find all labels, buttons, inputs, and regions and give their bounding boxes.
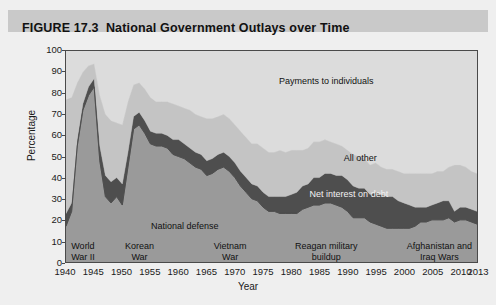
- annotation-afghanistan-and-iraq-wars: Afghanistan andIraq Wars: [407, 241, 472, 262]
- annotation-line1: Afghanistan and: [407, 241, 472, 252]
- y-tick-mark: [62, 220, 65, 221]
- annotation-net-interest-on-debt: Net interest on debt: [310, 189, 389, 200]
- annotation-national-defense: National defense: [151, 221, 219, 232]
- annotation-world-war-ii: WorldWar II: [71, 241, 95, 262]
- y-tick-label: 40: [34, 173, 62, 183]
- annotation-payments-to-individuals: Payments to individuals: [279, 76, 374, 87]
- y-tick-mark: [62, 135, 65, 136]
- stacked-area-chart: [66, 51, 477, 262]
- annotation-line1: Korean: [125, 241, 154, 252]
- y-tick-mark: [62, 263, 65, 264]
- plot-area: Payments to individualsAll otherNet inte…: [65, 50, 478, 263]
- annotation-reagan-military-buildup: Reagan militarybuildup: [295, 241, 358, 262]
- annotation-line2: Iraq Wars: [407, 252, 472, 263]
- annotation-line2: buildup: [295, 252, 358, 263]
- x-axis-ticks: 1940194519501955196019651970197519801985…: [8, 266, 488, 282]
- figure-title-band: FIGURE 17.3 National Government Outlays …: [8, 10, 488, 32]
- y-tick-label: 90: [34, 66, 62, 76]
- figure-container: FIGURE 17.3 National Government Outlays …: [0, 0, 496, 305]
- annotation-line2: War II: [71, 252, 95, 263]
- y-tick-label: 70: [34, 109, 62, 119]
- figure-title-text: National Government Outlays over Time: [106, 21, 350, 35]
- annotation-korean-war: KoreanWar: [125, 241, 154, 262]
- chart-frame: Percentage 0102030405060708090100 Paymen…: [8, 38, 488, 296]
- y-tick-label: 10: [34, 237, 62, 247]
- annotation-line2: War: [214, 252, 247, 263]
- figure-number: FIGURE 17.3: [22, 21, 99, 35]
- y-tick-mark: [62, 71, 65, 72]
- y-tick-label: 20: [34, 215, 62, 225]
- annotation-line1: Vietnam: [214, 241, 247, 252]
- annotation-line1: World: [71, 241, 95, 252]
- y-tick-mark: [62, 93, 65, 94]
- y-tick-mark: [62, 157, 65, 158]
- y-tick-mark: [62, 50, 65, 51]
- annotation-vietnam-war: VietnamWar: [214, 241, 247, 262]
- y-axis-ticks: 0102030405060708090100: [28, 38, 62, 264]
- x-tick-label: 2013: [461, 266, 495, 277]
- y-tick-label: 60: [34, 130, 62, 140]
- annotation-all-other: All other: [344, 153, 377, 164]
- y-tick-label: 80: [34, 88, 62, 98]
- annotation-line1: Reagan military: [295, 241, 358, 252]
- figure-title: FIGURE 17.3 National Government Outlays …: [22, 21, 350, 35]
- y-tick-label: 50: [34, 152, 62, 162]
- annotation-line2: War: [125, 252, 154, 263]
- y-tick-mark: [62, 199, 65, 200]
- y-tick-mark: [62, 114, 65, 115]
- y-tick-mark: [62, 242, 65, 243]
- y-tick-mark: [62, 178, 65, 179]
- y-tick-label: 30: [34, 194, 62, 204]
- x-axis-label: Year: [8, 281, 488, 292]
- y-tick-label: 100: [34, 45, 62, 55]
